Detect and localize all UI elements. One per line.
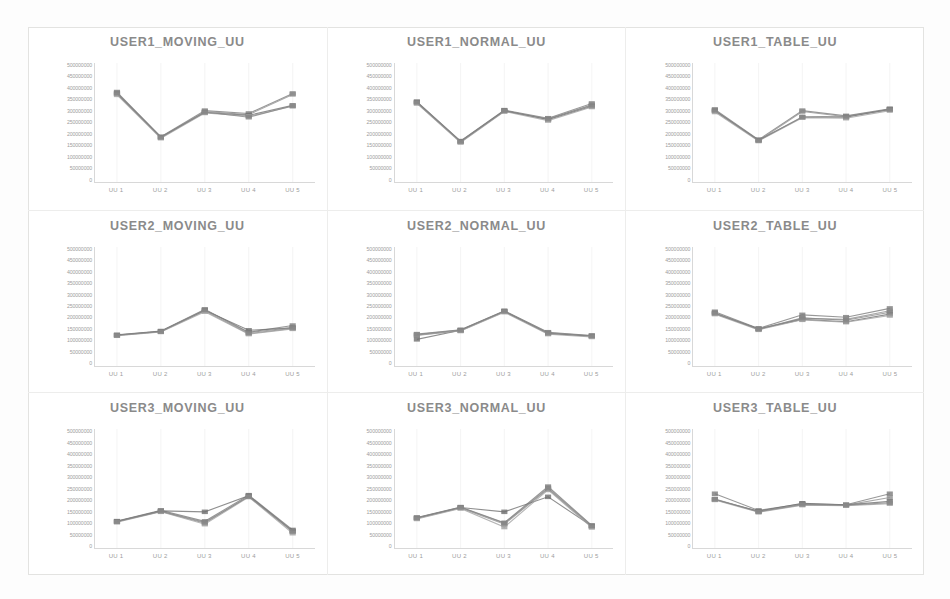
x-axis-tick-label: UU 5 [285,371,300,377]
y-axis-tick-label: 400000000 [67,452,92,457]
plot-wrapper: 5000000004500000004000000003500000003000… [28,237,327,393]
y-axis-tick-label: 350000000 [67,281,92,286]
y-axis-tick-label: 0 [688,361,691,366]
y-axis-tick-label: 350000000 [665,97,690,102]
y-axis-tick-label: 200000000 [665,315,690,320]
chart-plot-svg [395,429,614,548]
y-axis-tick-label: 350000000 [367,464,392,469]
chart-data-point [501,308,507,313]
chart-data-point [756,327,762,332]
y-axis-labels: 5000000004500000004000000003500000003000… [330,63,392,183]
y-axis-tick-label: 50000000 [70,533,92,538]
x-axis-tick-label: UU 4 [241,553,256,559]
plot-area [394,247,614,367]
chart-plot-svg [95,247,315,366]
chart-data-point [290,325,296,330]
y-axis-tick-label: 300000000 [67,109,92,114]
x-axis-tick-label: UU 5 [584,553,599,559]
y-axis-tick-label: 100000000 [367,521,392,526]
chart-panel[interactable]: USER3_NORMAL_UU 500000000450000000400000… [327,392,626,575]
chart-data-point [457,327,463,332]
y-axis-tick-label: 450000000 [67,441,92,446]
chart-data-point [588,333,594,338]
chart-plot-svg [693,63,912,182]
x-axis-tick-label: UU 1 [109,371,124,377]
chart-title: USER2_NORMAL_UU [328,219,626,233]
x-axis-tick-label: UU 4 [540,187,555,193]
x-axis-tick-label: UU 3 [496,187,511,193]
x-axis-tick-label: UU 2 [153,371,168,377]
x-axis-tick-label: UU 4 [839,371,854,377]
y-axis-tick-label: 300000000 [367,293,392,298]
chart-panel[interactable]: USER3_MOVING_UU 500000000450000000400000… [28,392,327,575]
chart-panel[interactable]: USER1_MOVING_UU 500000000450000000400000… [28,27,327,210]
chart-data-point [202,520,208,525]
chart-panel[interactable]: USER1_NORMAL_UU 500000000450000000400000… [327,27,626,210]
y-axis-tick-label: 100000000 [665,338,690,343]
x-axis-labels: UU 1UU 2UU 3UU 4UU 5 [692,371,912,377]
x-axis-tick-label: UU 1 [707,371,722,377]
chart-panel[interactable]: USER2_TABLE_UU 5000000004500000004000000… [625,210,924,393]
x-axis-tick-label: UU 3 [197,553,212,559]
chart-title: USER1_MOVING_UU [28,35,327,49]
chart-data-point [712,492,718,497]
x-axis-labels: UU 1UU 2UU 3UU 4UU 5 [394,371,614,377]
chart-panel[interactable]: USER2_NORMAL_UU 500000000450000000400000… [327,210,626,393]
y-axis-tick-label: 450000000 [67,258,92,263]
x-axis-labels: UU 1UU 2UU 3UU 4UU 5 [94,187,315,193]
y-axis-tick-label: 500000000 [67,429,92,434]
chart-data-point [158,509,164,514]
y-axis-tick-label: 50000000 [369,350,391,355]
x-axis-tick-label: UU 4 [241,187,256,193]
chart-title: USER3_MOVING_UU [28,401,327,415]
y-axis-tick-label: 100000000 [665,155,690,160]
y-axis-tick-label: 0 [389,361,392,366]
y-axis-labels: 5000000004500000004000000003500000003000… [30,429,92,549]
y-axis-tick-label: 100000000 [67,521,92,526]
plot-wrapper: 5000000004500000004000000003500000003000… [626,419,924,575]
y-axis-tick-label: 350000000 [367,97,392,102]
y-axis-tick-label: 450000000 [67,74,92,79]
chart-title: USER3_TABLE_UU [626,401,924,415]
chart-title: USER2_TABLE_UU [626,219,924,233]
y-axis-tick-label: 100000000 [67,155,92,160]
x-axis-tick-label: UU 5 [584,371,599,377]
plot-wrapper: 5000000004500000004000000003500000003000… [28,419,327,575]
x-axis-tick-label: UU 2 [153,187,168,193]
chart-data-point [712,497,718,502]
chart-data-point [712,108,718,113]
plot-area [94,429,315,549]
y-axis-tick-label: 0 [89,361,92,366]
chart-data-point [114,333,120,338]
y-axis-tick-label: 400000000 [665,452,690,457]
y-axis-tick-label: 150000000 [665,143,690,148]
chart-data-point [800,109,806,114]
chart-plot-svg [693,429,912,548]
chart-data-point [800,315,806,320]
y-axis-tick-label: 350000000 [67,97,92,102]
chart-data-point [887,107,893,112]
chart-data-point [501,109,507,114]
y-axis-tick-label: 500000000 [67,63,92,68]
page-canvas: USER1_MOVING_UU 500000000450000000400000… [0,0,950,599]
plot-area [394,429,614,549]
chart-panel[interactable]: USER2_MOVING_UU 500000000450000000400000… [28,210,327,393]
chart-panel[interactable]: USER1_TABLE_UU 5000000004500000004000000… [625,27,924,210]
chart-panel[interactable]: USER3_TABLE_UU 5000000004500000004000000… [625,392,924,575]
x-axis-tick-label: UU 2 [452,187,467,193]
chart-title: USER1_TABLE_UU [626,35,924,49]
chart-data-point [413,100,419,105]
plot-area [94,63,315,183]
y-axis-tick-label: 350000000 [67,464,92,469]
chart-title: USER2_MOVING_UU [28,219,327,233]
y-axis-tick-label: 0 [688,178,691,183]
chart-data-point [158,329,164,334]
x-axis-labels: UU 1UU 2UU 3UU 4UU 5 [394,553,614,559]
chart-data-point [545,330,551,335]
y-axis-tick-label: 500000000 [367,63,392,68]
x-axis-tick-label: UU 2 [751,553,766,559]
y-axis-tick-label: 50000000 [369,533,391,538]
plot-area [692,429,912,549]
chart-data-point [457,139,463,144]
y-axis-tick-label: 400000000 [67,86,92,91]
